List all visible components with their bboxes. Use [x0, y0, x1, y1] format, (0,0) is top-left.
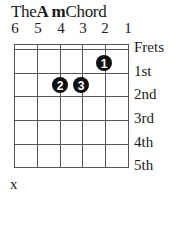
svg-text:3: 3 — [78, 79, 85, 93]
frets-header: Frets — [134, 39, 164, 56]
fret-label-4: 4th — [134, 134, 153, 151]
fret-label-2: 2nd — [134, 86, 157, 103]
fret-label-3: 3rd — [134, 110, 154, 127]
svg-text:1: 1 — [101, 57, 108, 71]
fret-label-1: 1st — [134, 63, 152, 80]
finger-dot-3: 3 — [73, 77, 89, 93]
finger-dot-1: 1 — [96, 55, 112, 71]
svg-text:2: 2 — [57, 79, 64, 93]
finger-dot-2: 2 — [52, 77, 68, 93]
muted-string-marker: x — [10, 176, 18, 193]
fret-label-5: 5th — [134, 157, 153, 174]
